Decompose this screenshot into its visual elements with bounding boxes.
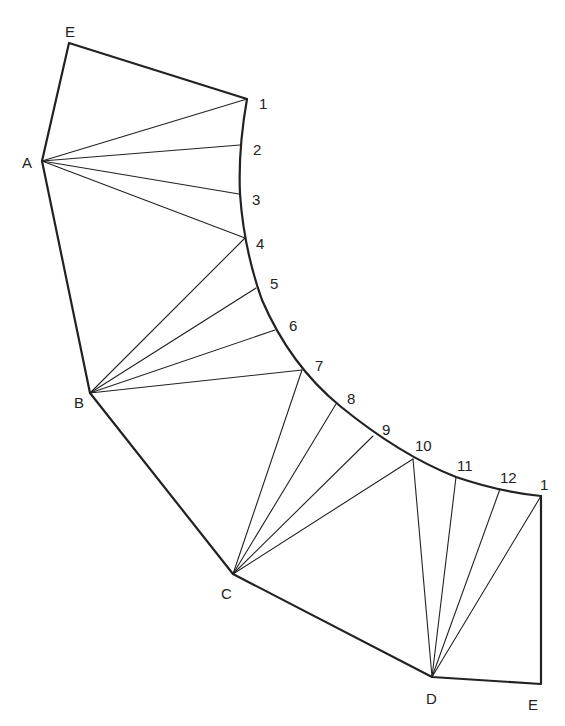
triangulation-diagram: E1A234567B891011121CDE: [0, 0, 565, 726]
lines-from-C: [233, 370, 413, 574]
point-label: 1: [259, 96, 267, 111]
point-label: 9: [382, 422, 390, 437]
point-label: 12: [500, 470, 517, 485]
point-label: A: [22, 155, 32, 170]
point-label: E: [528, 697, 538, 712]
point-label: 11: [457, 458, 473, 473]
point-label: 1: [540, 477, 548, 492]
outer-boundary: [42, 43, 541, 684]
point-label: 2: [253, 142, 261, 157]
point-label: 8: [347, 391, 355, 406]
point-label: 5: [270, 276, 278, 291]
point-label: 6: [289, 318, 297, 333]
point-label: 7: [315, 358, 323, 373]
point-label: 3: [252, 192, 260, 207]
lines-from-D: [413, 459, 541, 677]
lines-from-A: [42, 99, 247, 238]
point-label: 4: [256, 236, 264, 251]
point-label: C: [221, 586, 232, 601]
diagram-lines: [0, 0, 565, 726]
point-label: 10: [415, 438, 432, 453]
point-label: E: [65, 24, 75, 39]
point-label: B: [74, 395, 84, 410]
point-label: D: [426, 691, 437, 706]
